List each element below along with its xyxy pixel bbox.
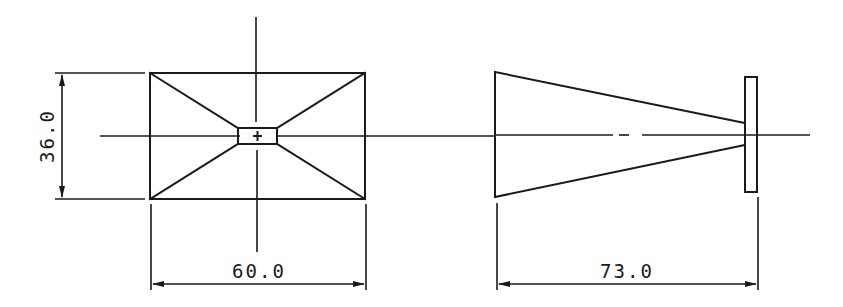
taper-edge-br bbox=[277, 144, 365, 199]
arrow-left-icon bbox=[498, 281, 510, 287]
arrow-down-icon bbox=[59, 186, 65, 198]
length-dimension-label: 73.0 bbox=[600, 260, 654, 282]
side-view: 73.0 bbox=[495, 72, 810, 290]
taper-edge-bl bbox=[150, 144, 238, 199]
horn-top-edge bbox=[495, 72, 745, 123]
front-view: 36.0 60.0 bbox=[36, 17, 495, 290]
taper-edge-tr bbox=[277, 73, 365, 128]
width-dimension-label: 60.0 bbox=[232, 260, 286, 282]
arrow-up-icon bbox=[59, 74, 65, 86]
height-dimension-label: 36.0 bbox=[36, 109, 58, 163]
taper-edge-tl bbox=[150, 73, 238, 128]
arrow-left-icon bbox=[152, 281, 164, 287]
technical-drawing: 36.0 60.0 73.0 bbox=[0, 0, 843, 307]
arrow-right-icon bbox=[745, 281, 757, 287]
arrow-right-icon bbox=[353, 281, 365, 287]
horn-bottom-edge bbox=[495, 145, 745, 197]
